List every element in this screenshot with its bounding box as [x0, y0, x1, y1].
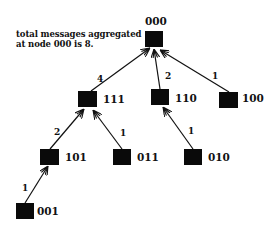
node-101: 101: [40, 149, 87, 165]
edge-weight: 1: [120, 128, 126, 138]
node-011: 011: [113, 149, 159, 165]
node-box: [219, 92, 238, 108]
edge-weight: 4: [97, 74, 103, 84]
node-010: 010: [184, 149, 230, 165]
node-box: [145, 31, 163, 47]
edge-weight: 1: [212, 71, 218, 81]
aggregation-tree-diagram: 4 2 1 2 1 1 1 000 111 110 100 1: [0, 0, 278, 232]
edge-111-000: 4: [91, 48, 150, 91]
node-box: [40, 149, 59, 165]
node-label: 010: [208, 151, 230, 163]
node-111: 111: [78, 91, 125, 107]
node-label: 100: [242, 92, 264, 104]
node-label: 110: [175, 92, 197, 104]
node-label: 011: [137, 151, 159, 163]
edge-011-111: 1: [93, 110, 126, 149]
edge-weight: 1: [22, 183, 28, 193]
node-label: 000: [145, 15, 167, 27]
node-001: 001: [16, 203, 59, 219]
edge-weight: 1: [188, 126, 194, 136]
edge-weight: 2: [165, 71, 171, 81]
edge-010-110: 1: [163, 107, 194, 149]
node-000: 000: [145, 15, 167, 47]
edge-101-111: 2: [50, 109, 84, 149]
node-100: 100: [219, 92, 264, 108]
node-box: [113, 149, 131, 165]
node-box: [78, 91, 97, 107]
node-box: [184, 149, 202, 165]
node-box: [151, 89, 169, 105]
edge-weight: 2: [54, 127, 60, 137]
node-label: 001: [37, 205, 59, 217]
node-box: [16, 203, 34, 219]
node-label: 101: [65, 151, 87, 163]
node-110: 110: [151, 89, 197, 105]
edge-001-101: 1: [22, 166, 48, 203]
node-label: 111: [103, 93, 125, 105]
